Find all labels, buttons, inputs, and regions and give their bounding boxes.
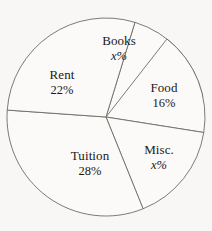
pie-label-books: Books x% [102, 34, 136, 63]
pie-label-misc-name: Misc. [144, 143, 174, 158]
pie-label-misc-value: x% [144, 157, 174, 171]
pie-label-rent-value: 22% [50, 82, 75, 96]
pie-label-books-value: x% [102, 48, 136, 62]
pie-label-books-name: Books [102, 34, 136, 49]
pie-label-food: Food 16% [150, 81, 177, 110]
pie-label-misc: Misc. x% [144, 143, 174, 172]
pie-label-rent-name: Rent [50, 68, 75, 83]
pie-label-tuition: Tuition 28% [71, 149, 110, 178]
pie-label-tuition-value: 28% [71, 163, 110, 177]
pie-label-food-name: Food [150, 81, 177, 96]
pie-label-rent: Rent 22% [50, 68, 75, 97]
pie-label-food-value: 16% [150, 95, 177, 109]
pie-chart: Books x% Rent 22% Food 16% Misc. x% Tuit… [0, 0, 212, 231]
pie-label-tuition-name: Tuition [71, 149, 110, 164]
